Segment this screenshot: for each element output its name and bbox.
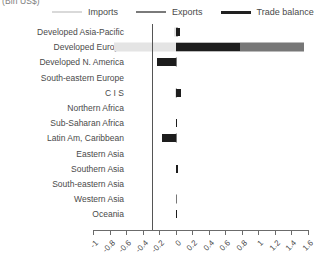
x-axis-tick [291,230,292,235]
bar-exports [176,134,177,143]
bar-balance [176,89,182,97]
plot-area: Developed Asia-PacificDeveloped EuropeDe… [0,24,317,230]
x-axis: -1-0.8-0.6-0.4-0.200.20.40.60.811.21.41.… [0,230,317,278]
bar-balance [157,58,176,66]
x-axis-tick [126,230,127,235]
legend-label-trade-balance: Trade balance [257,7,314,17]
chart-legend: Imports Exports Trade balance [0,5,317,19]
x-axis-tick [242,230,243,235]
bar-balance [176,165,178,173]
x-axis-tick [225,230,226,235]
bar-balance [162,134,175,142]
x-axis-tick [192,230,193,235]
bar-balance [176,43,241,51]
x-axis-tick [110,230,111,235]
bar-balance [176,119,178,127]
legend-item-imports[interactable]: Imports [52,7,118,17]
bar-balance [176,210,178,218]
zero-line [152,24,153,230]
legend-item-exports[interactable]: Exports [136,7,203,17]
x-axis-tick [258,230,259,235]
trade-balance-chart: (Bln US$) Imports Exports Trade balance … [0,0,317,278]
x-axis-tick [275,230,276,235]
legend-label-exports: Exports [172,7,203,17]
x-axis-tick [93,230,94,235]
x-axis-tick [143,230,144,235]
line-swatch-icon-exports [136,11,166,13]
x-axis-tick [159,230,160,235]
bar-balance [176,28,180,36]
x-axis-tick [176,230,177,235]
bar-imports [114,43,176,52]
line-swatch-icon-trade-balance [221,11,251,14]
bar-exports [176,195,177,204]
bar-exports [176,58,177,67]
x-axis-tick [308,230,309,235]
bars-area [0,24,317,230]
x-axis-tick [209,230,210,235]
legend-label-imports: Imports [88,7,118,17]
legend-item-trade-balance[interactable]: Trade balance [221,7,314,17]
line-swatch-icon-imports [52,11,82,13]
